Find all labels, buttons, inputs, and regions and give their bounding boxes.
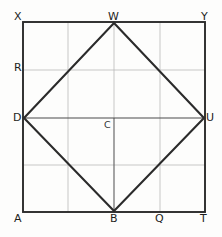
vertex-label-D: D (13, 112, 21, 123)
vertex-label-R: R (14, 62, 22, 73)
vertex-label-Q: Q (155, 213, 164, 224)
vertex-label-X: X (14, 11, 22, 22)
geometry-figure: X W Y R D C U A B Q T (0, 0, 222, 237)
vertex-label-T: T (200, 213, 207, 224)
vertex-label-A: A (14, 213, 22, 224)
vertex-label-Y: Y (201, 11, 208, 22)
geometry-canvas (0, 0, 222, 237)
vertex-label-U: U (206, 112, 214, 123)
vertex-label-B: B (110, 213, 118, 224)
vertex-label-W: W (108, 11, 119, 22)
vertex-label-C: C (104, 120, 111, 130)
